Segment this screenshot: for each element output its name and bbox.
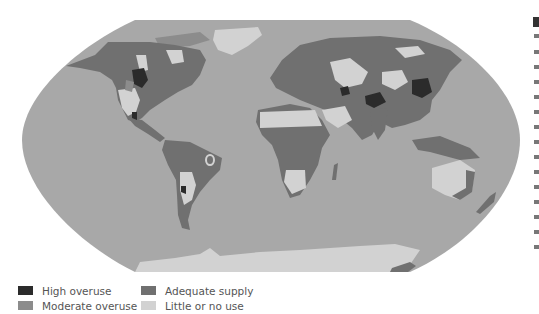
side-text-line [534,245,539,249]
legend-item-adequate-supply: Adequate supply [141,284,253,297]
side-text-line [534,110,539,114]
side-text-line [534,80,539,84]
side-text-line [534,230,539,234]
side-text-line [534,200,539,204]
side-text-line [534,170,539,174]
map-legend: High overuse Moderate overuse Adequate s… [18,284,338,314]
swatch-adequate-supply [141,286,156,295]
side-text-line [534,125,539,129]
legend-item-little-or-no-use: Little or no use [141,299,244,312]
side-text-line [534,95,539,99]
side-text-line [534,215,539,219]
side-text-line [534,34,539,38]
legend-item-high-overuse: High overuse [18,284,111,297]
legend-label: Adequate supply [165,285,253,297]
side-text-line [534,155,539,159]
side-text-line [534,185,539,189]
legend-item-moderate-overuse: Moderate overuse [18,299,137,312]
side-text-line [534,140,539,144]
side-text-line [534,65,539,69]
swatch-little-or-no-use [141,301,156,310]
truncated-side-text [533,17,539,267]
side-text-line [534,50,539,54]
legend-label: High overuse [42,285,111,297]
legend-label: Moderate overuse [42,300,137,312]
side-heading-mark [533,17,539,27]
swatch-high-overuse [18,286,33,295]
world-map [0,0,539,280]
legend-label: Little or no use [165,300,244,312]
sahara-little-use [260,110,322,128]
swatch-moderate-overuse [18,301,33,310]
